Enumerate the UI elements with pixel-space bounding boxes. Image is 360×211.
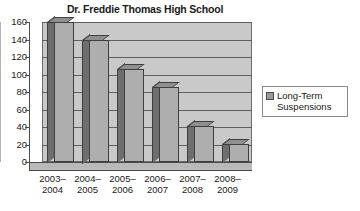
x-axis-tick-label-line: 2007: [140, 184, 176, 195]
x-axis-tick-label-line: 2006–: [140, 173, 176, 184]
x-axis-tick-label-line: 2006: [105, 184, 141, 195]
bar: [159, 87, 179, 162]
y-axis-line: [29, 22, 30, 171]
x-axis-tick-label: 2007–2008: [175, 173, 211, 195]
bar-front-face: [159, 87, 179, 162]
legend-item-long-term-suspensions[interactable]: Long-Term Suspensions: [266, 90, 344, 112]
y-axis-tick-mark: [25, 127, 30, 128]
bar: [124, 69, 144, 162]
y-axis-tick-mark: [25, 162, 30, 163]
x-axis-tick-label-line: 2005–: [105, 173, 141, 184]
x-axis-tick-label-line: 2008–: [210, 173, 246, 184]
y-axis-tick-mark: [25, 22, 30, 23]
gridline: [42, 22, 252, 23]
y-axis-tick-mark: [25, 75, 30, 76]
bar: [54, 22, 74, 162]
x-axis-line: [30, 162, 252, 163]
legend-label-line1: Long-Term: [277, 90, 322, 101]
plot-floor-edge: [30, 170, 252, 171]
x-axis-tick-label-line: 2004: [35, 184, 71, 195]
plot-area: [42, 22, 252, 162]
bar-front-face: [194, 126, 214, 162]
x-axis-tick-label: 2008–2009: [210, 173, 246, 195]
legend-label: Long-Term Suspensions: [277, 90, 331, 112]
y-axis-tick-mark: [25, 57, 30, 58]
bar-front-face: [124, 69, 144, 162]
chart-legend[interactable]: Long-Term Suspensions: [262, 86, 348, 117]
y-axis-tick-mark: [25, 40, 30, 41]
x-axis-tick-label-line: 2003–: [35, 173, 71, 184]
bar: [89, 40, 109, 163]
y-axis-tick-mark: [25, 92, 30, 93]
chart-container: Dr. Freddie Thomas High School 020406080…: [0, 0, 360, 211]
y-axis-tick-label: 20: [0, 140, 27, 150]
bar: [229, 144, 249, 162]
x-axis-tick-label: 2005–2006: [105, 173, 141, 195]
chart-title: Dr. Freddie Thomas High School: [0, 3, 290, 15]
legend-label-line2: Suspensions: [277, 101, 331, 112]
y-axis-tick-label: 140: [0, 35, 27, 45]
y-axis-tick-mark: [25, 110, 30, 111]
gridline: [42, 40, 252, 41]
gridline: [42, 57, 252, 58]
gridline: [42, 110, 252, 111]
y-axis-tick-label: 40: [0, 122, 27, 132]
y-axis-tick-label: 0: [0, 157, 27, 167]
x-axis-tick-label: 2003–2004: [35, 173, 71, 195]
y-axis-tick-label: 60: [0, 105, 27, 115]
x-axis-tick-label-line: 2008: [175, 184, 211, 195]
y-axis-tick-mark: [25, 145, 30, 146]
x-axis-tick-label: 2004–2005: [70, 173, 106, 195]
gridline: [42, 127, 252, 128]
y-axis-tick-label: 160: [0, 17, 27, 27]
x-axis-tick-label: 2006–2007: [140, 173, 176, 195]
gridline: [42, 75, 252, 76]
bar-front-face: [54, 22, 74, 162]
legend-swatch-icon: [266, 92, 274, 100]
gridline: [42, 92, 252, 93]
x-axis-tick-label-line: 2009: [210, 184, 246, 195]
x-axis-tick-label-line: 2004–: [70, 173, 106, 184]
x-axis-tick-label-line: 2005: [70, 184, 106, 195]
y-axis-tick-label: 120: [0, 52, 27, 62]
bar-front-face: [229, 144, 249, 162]
bar-front-face: [89, 40, 109, 163]
y-axis-tick-label: 100: [0, 70, 27, 80]
y-axis-tick-label: 80: [0, 87, 27, 97]
x-axis-tick-label-line: 2007–: [175, 173, 211, 184]
bar: [194, 126, 214, 162]
